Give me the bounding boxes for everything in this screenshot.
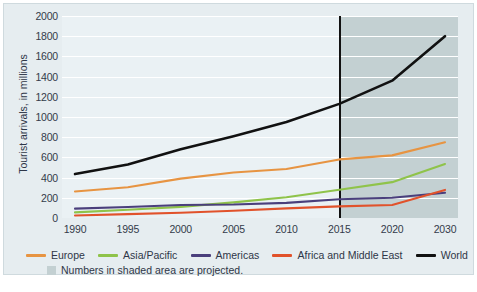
projection-note-label: Numbers in shaded area are projected. [61, 264, 243, 276]
y-tick-label: 1400 [2, 71, 58, 83]
y-tick-label: 1800 [2, 30, 58, 42]
x-tick-label: 2030 [434, 223, 457, 235]
y-tick-label: 1200 [2, 91, 58, 103]
y-tick-label: 400 [2, 172, 58, 184]
legend-item-label: Europe [51, 249, 85, 261]
y-tick-label: 800 [2, 131, 58, 143]
legend-item[interactable]: World [416, 249, 468, 261]
shaded-swatch-icon [47, 266, 56, 275]
x-tick-label: 2020 [381, 223, 404, 235]
y-tick-label: 1600 [2, 50, 58, 62]
y-tick-label: 2000 [2, 10, 58, 22]
y-tick-label: 1000 [2, 111, 58, 123]
legend-item[interactable]: Americas [191, 249, 260, 261]
figure-container: Tourist arrivals, in millions 0200400600… [0, 0, 477, 292]
line-swatch-icon [98, 254, 118, 257]
x-tick-label: 2010 [275, 223, 298, 235]
line-swatch-icon [416, 254, 436, 257]
x-axis-ticks: 19901995200020052010201520202030 [62, 223, 458, 237]
y-axis-ticks: 0200400600800100012001400160018002000 [0, 16, 58, 218]
x-tick-label: 2000 [169, 223, 192, 235]
line-swatch-icon [272, 254, 292, 257]
y-tick-label: 600 [2, 151, 58, 163]
legend-item[interactable]: Europe [26, 249, 85, 261]
series-lines [62, 16, 458, 218]
legend-item-label: Americas [216, 249, 260, 261]
plot-area [62, 16, 458, 218]
x-tick-label: 2005 [222, 223, 245, 235]
x-tick-label: 1995 [117, 223, 140, 235]
line-swatch-icon [191, 254, 211, 257]
legend: EuropeAsia/PacificAmericasAfrica and Mid… [26, 248, 468, 262]
projection-note: Numbers in shaded area are projected. [47, 264, 243, 276]
legend-item[interactable]: Asia/Pacific [98, 249, 177, 261]
x-tick-label: 2015 [328, 223, 351, 235]
legend-item-label: Asia/Pacific [123, 249, 177, 261]
y-tick-label: 200 [2, 192, 58, 204]
legend-item-label: World [441, 249, 468, 261]
line-swatch-icon [26, 254, 46, 257]
figure-caption [4, 281, 304, 292]
x-tick-label: 1990 [64, 223, 87, 235]
legend-item[interactable]: Africa and Middle East [272, 249, 402, 261]
y-tick-label: 0 [2, 212, 58, 224]
legend-item-label: Africa and Middle East [297, 249, 402, 261]
series-line-europe [75, 142, 445, 191]
series-line-world [75, 36, 445, 174]
